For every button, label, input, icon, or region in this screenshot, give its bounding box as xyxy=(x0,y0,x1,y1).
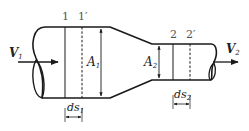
ds1-label: ds1 xyxy=(67,101,84,115)
velocity-v2-label: V2 xyxy=(226,42,240,57)
continuity-pipe-diagram: 1 1′ 2 2′ A1 A2 V1 V2 ds1 ds2 xyxy=(0,0,249,131)
section-2-label: 2 xyxy=(170,28,177,41)
area-a2-label: A2 xyxy=(143,55,158,70)
ds2-dimension: ds2 xyxy=(173,88,192,109)
velocity-v1-label: V1 xyxy=(9,46,23,61)
section-1-label: 1 xyxy=(62,10,69,23)
ds1-dimension: ds1 xyxy=(65,101,84,122)
area-a1-label: A1 xyxy=(86,55,100,70)
section-2prime-label: 2′ xyxy=(186,28,196,41)
ds2-label: ds2 xyxy=(174,88,192,102)
section-1prime-label: 1′ xyxy=(78,10,88,23)
